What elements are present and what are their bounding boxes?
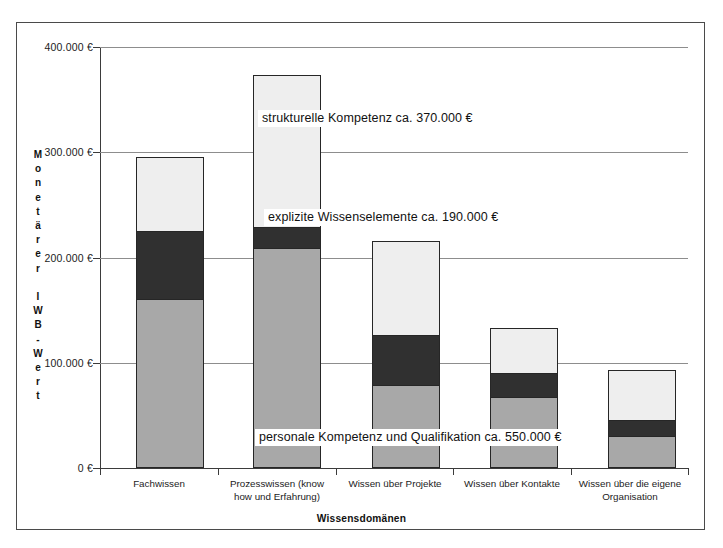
x-tick-label-line: Prozesswissen (know bbox=[218, 477, 336, 490]
bar-segment-explicit[interactable] bbox=[253, 227, 321, 249]
bar-segment-explicit[interactable] bbox=[136, 231, 204, 300]
bar-segment-explicit[interactable] bbox=[490, 373, 558, 398]
bar-segment-structural[interactable] bbox=[372, 241, 440, 336]
bar-segment-structural[interactable] bbox=[608, 370, 676, 421]
bar-segment-personal[interactable] bbox=[608, 436, 676, 468]
y-tick-mark-400000 bbox=[93, 47, 100, 48]
annotation-personale-kompetenz: personale Kompetenz und Qualifikation ca… bbox=[255, 429, 566, 446]
y-tick-mark-200000 bbox=[93, 258, 100, 259]
y-axis-title-char: I bbox=[30, 290, 46, 304]
y-axis-title-char bbox=[30, 276, 46, 290]
x-tick-label-prozesswissen: Prozesswissen (know how und Erfahrung) bbox=[218, 477, 336, 503]
y-axis-title-char: t bbox=[30, 205, 46, 219]
x-tick-mark-1 bbox=[218, 468, 219, 475]
bar-wissen-ueber-die-eigene-organisation[interactable] bbox=[608, 47, 676, 468]
x-tick-label-line: Wissen über Projekte bbox=[336, 477, 454, 490]
y-axis-title-char: o bbox=[30, 162, 46, 176]
x-tick-mark-0 bbox=[100, 468, 101, 475]
bar-segment-structural[interactable] bbox=[490, 328, 558, 374]
annotation-explizite-wissenselemente: explizite Wissenselemente ca. 190.000 € bbox=[264, 209, 502, 226]
y-axis-title-char: - bbox=[30, 333, 46, 347]
x-tick-label-fachwissen: Fachwissen bbox=[100, 477, 218, 490]
y-tick-mark-100000 bbox=[93, 363, 100, 364]
y-tick-label-100000: 100.000 € bbox=[15, 357, 93, 369]
x-tick-mark-5 bbox=[688, 468, 689, 475]
y-tick-mark-300000 bbox=[93, 152, 100, 153]
y-tick-label-0: 0 € bbox=[15, 462, 93, 474]
y-axis-title-char: t bbox=[30, 389, 46, 403]
bar-segment-structural[interactable] bbox=[253, 75, 321, 228]
y-axis-title-char: r bbox=[30, 262, 46, 276]
bar-segment-personal[interactable] bbox=[372, 385, 440, 468]
y-axis-title-char: W bbox=[30, 304, 46, 318]
x-tick-label-line: Organisation bbox=[565, 490, 695, 503]
x-axis-title: Wissensdomänen bbox=[0, 513, 723, 524]
y-axis-title-char: e bbox=[30, 191, 46, 205]
x-tick-mark-2 bbox=[336, 468, 337, 475]
y-axis-tick-labels: 400.000 € 300.000 € 200.000 € 100.000 € … bbox=[8, 0, 93, 548]
bar-segment-structural[interactable] bbox=[136, 157, 204, 232]
y-axis-title-char: r bbox=[30, 233, 46, 247]
y-tick-mark-0 bbox=[93, 468, 100, 469]
bar-segment-explicit[interactable] bbox=[608, 420, 676, 437]
x-tick-label-line: Fachwissen bbox=[100, 477, 218, 490]
bar-fachwissen[interactable] bbox=[136, 47, 204, 468]
y-axis-title-char: e bbox=[30, 247, 46, 261]
x-tick-label-line: Wissen über Kontakte bbox=[453, 477, 571, 490]
bar-wissen-ueber-kontakte[interactable] bbox=[490, 47, 558, 468]
x-tick-label-line: Wissen über die eigene bbox=[565, 477, 695, 490]
y-tick-label-200000: 200.000 € bbox=[15, 252, 93, 264]
x-tick-label-line: how und Erfahrung) bbox=[218, 490, 336, 503]
y-axis-title-char: n bbox=[30, 176, 46, 190]
x-tick-mark-3 bbox=[453, 468, 454, 475]
bar-segment-explicit[interactable] bbox=[372, 335, 440, 386]
y-axis-title-char: r bbox=[30, 375, 46, 389]
y-axis-title-char: B bbox=[30, 318, 46, 332]
y-tick-label-300000: 300.000 € bbox=[15, 146, 93, 158]
y-axis-title: Monetärer IWB-Wert bbox=[30, 148, 46, 404]
y-axis-title-char: e bbox=[30, 361, 46, 375]
y-axis-title-char: W bbox=[30, 347, 46, 361]
x-tick-label-wissen-ueber-kontakte: Wissen über Kontakte bbox=[453, 477, 571, 490]
y-tick-label-400000: 400.000 € bbox=[15, 41, 93, 53]
x-tick-label-wissen-ueber-projekte: Wissen über Projekte bbox=[336, 477, 454, 490]
y-axis-title-char: M bbox=[30, 148, 46, 162]
x-tick-mark-4 bbox=[571, 468, 572, 475]
x-axis-line bbox=[100, 468, 688, 469]
annotation-structural-kompetenz: strukturelle Kompetenz ca. 370.000 € bbox=[258, 110, 477, 127]
y-axis-title-char: ä bbox=[30, 219, 46, 233]
x-tick-label-wissen-ueber-die-eigene-organisation: Wissen über die eigene Organisation bbox=[565, 477, 695, 503]
bar-segment-personal[interactable] bbox=[136, 299, 204, 468]
